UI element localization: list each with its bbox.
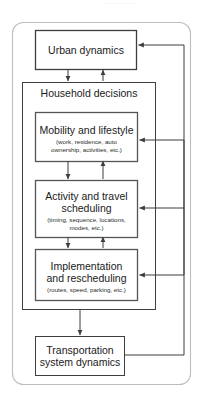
node-urban-dynamics-box bbox=[36, 31, 137, 70]
node-transportation-system-dynamics-box bbox=[36, 337, 125, 376]
node-mobility-and-lifestyle-box bbox=[36, 113, 138, 162]
node-activity-and-travel-scheduling-box bbox=[36, 181, 138, 238]
diagram-root: ············ bbox=[0, 0, 203, 407]
diagram-canvas bbox=[0, 0, 203, 407]
node-implementation-and-rescheduling-box bbox=[36, 250, 138, 301]
